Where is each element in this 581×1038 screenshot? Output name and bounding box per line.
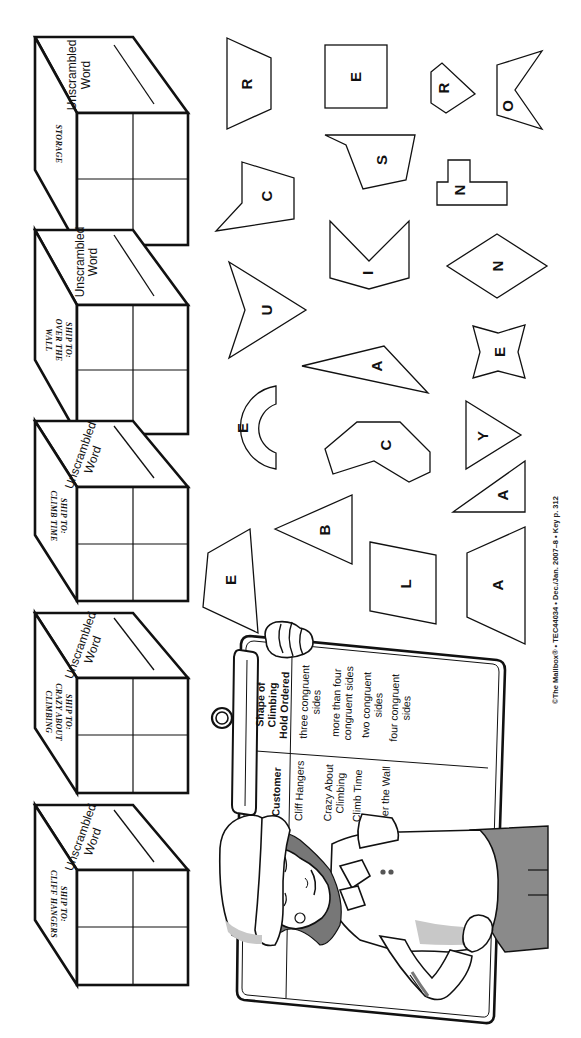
svg-text:B: B <box>316 524 333 535</box>
box-label-line-2: CLIFF HANGERS <box>49 870 58 938</box>
hand-holding-clipboard <box>265 622 313 658</box>
box-label-line-1: SHIP TO: <box>64 322 73 358</box>
shape-e-quadrilateral[interactable]: E <box>203 529 258 633</box>
table-header-customer: Customer <box>269 767 283 816</box>
svg-text:U: U <box>258 305 275 316</box>
copyright-credit: ©The Mailbox® • TEC44034 • Dec./Jan. 200… <box>551 496 560 704</box>
unscrambled-word-label: Unscrambled <box>65 40 79 111</box>
svg-text:N: N <box>451 185 468 196</box>
svg-text:E: E <box>222 575 239 585</box>
svg-text:A: A <box>489 579 506 590</box>
worksheet-canvas: Unscrambled Word STORAGE Unscrambled Wor… <box>0 0 581 1038</box>
unscrambled-word-label-2: Word <box>86 248 100 276</box>
box-label-line-2: CRAZY ABOUT <box>54 683 63 741</box>
box-label-line-1: SHIP TO: <box>59 886 68 922</box>
shape-o-concave-hexagon[interactable]: O <box>497 51 542 129</box>
box-crazy-about-climbing: Unscrambled Word SHIP TO: CRAZY ABOUT CL… <box>35 610 188 793</box>
shape-s-concave-quadrilateral[interactable]: S <box>325 135 415 189</box>
shape-n-t-shape[interactable]: N <box>437 160 507 205</box>
svg-text:E: E <box>347 72 364 82</box>
svg-text:sides: sides <box>310 690 323 715</box>
shape-a-right-triangle[interactable]: A <box>453 461 525 512</box>
svg-text:S: S <box>373 155 390 165</box>
shape-b-triangle[interactable]: B <box>275 495 352 564</box>
svg-text:A: A <box>368 360 385 371</box>
box-label-line-1: SHIP TO: <box>64 694 73 730</box>
shape-a-trapezoid[interactable]: A <box>467 527 525 644</box>
shape-e-half-annulus[interactable]: E <box>234 386 276 469</box>
svg-text:sides: sides <box>400 696 413 721</box>
box-cliff-hangers: Unscrambled Word SHIP TO: CLIFF HANGERS <box>35 802 188 985</box>
unscrambled-word-label-2: Word <box>79 61 93 89</box>
svg-text:Hold Ordered: Hold Ordered <box>277 672 291 739</box>
box-storage: Unscrambled Word STORAGE <box>35 37 188 245</box>
svg-text:R: R <box>238 78 255 89</box>
shape-y-triangle[interactable]: Y <box>466 401 521 469</box>
box-label-line-3: CLIMBING <box>44 691 53 734</box>
unscrambled-word-label: Unscrambled <box>73 227 87 298</box>
box-over-the-wall: Unscrambled Word SHIP TO: OVER THE WALL <box>35 227 188 434</box>
shape-e-four-point-star[interactable]: E <box>473 325 525 378</box>
box-label-line-3: WALL <box>44 329 53 352</box>
svg-text:Cliff Hangers: Cliff Hangers <box>292 760 306 821</box>
shape-l-parallelogram[interactable]: L <box>370 542 436 624</box>
shape-r-pentagon[interactable]: R <box>431 63 475 113</box>
shape-u-arrowhead[interactable]: U <box>229 262 306 358</box>
svg-text:R: R <box>435 82 452 93</box>
shape-r-trapezoid[interactable]: R <box>227 38 271 129</box>
shape-a-scalene-triangle[interactable]: A <box>302 346 428 393</box>
svg-text:sides: sides <box>372 693 385 718</box>
svg-text:A: A <box>494 489 511 500</box>
shape-c-concave-pentagon[interactable]: C <box>216 162 294 231</box>
svg-text:O: O <box>499 100 516 112</box>
svg-text:E: E <box>234 423 251 433</box>
svg-text:L: L <box>397 579 414 588</box>
svg-text:C: C <box>258 190 275 201</box>
svg-text:Y: Y <box>474 431 491 441</box>
box-label-line-1: SHIP TO: <box>59 498 68 534</box>
svg-text:C: C <box>377 439 394 450</box>
box-label-line-2: OVER THE <box>54 319 63 362</box>
shape-e-square[interactable]: E <box>325 45 387 108</box>
svg-text:E: E <box>491 347 508 357</box>
shape-i-concave-pentagon[interactable]: I <box>330 221 409 289</box>
svg-text:I: I <box>359 271 376 275</box>
svg-text:two congruent: two congruent <box>359 672 373 738</box>
shape-n-rhombus[interactable]: N <box>447 234 547 298</box>
svg-text:Climbing: Climbing <box>333 772 346 813</box>
shape-c-concave-heptagon[interactable]: C <box>325 422 430 482</box>
box-label-line-2: CLIMB TIME <box>49 490 58 541</box>
svg-text:N: N <box>489 261 506 272</box>
svg-text:Customer: Customer <box>269 767 283 816</box>
box-label: STORAGE <box>54 125 63 164</box>
box-climb-time: Unscrambled Word SHIP TO: CLIMB TIME <box>35 420 188 601</box>
